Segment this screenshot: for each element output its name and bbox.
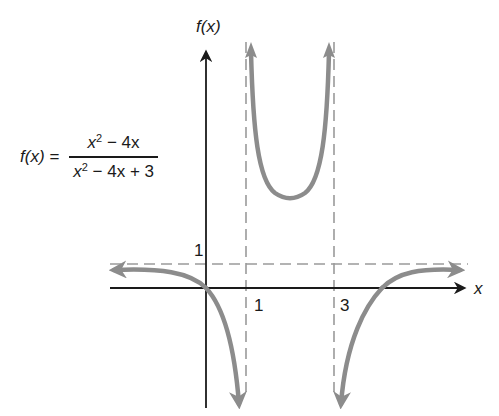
x-tick-1: 1 (254, 297, 263, 314)
middle-branch-arrows (245, 42, 335, 58)
x-axis-label: x (474, 280, 483, 297)
y-tick-1: 1 (194, 242, 203, 259)
numerator: x2 − 4x (82, 132, 146, 156)
function-label: f(x) = (20, 147, 59, 167)
asymptotes (110, 42, 468, 392)
x-tick-3: 3 (340, 297, 349, 314)
fraction: x2 − 4x x2 − 4x + 3 (69, 132, 158, 182)
function-formula: f(x) = x2 − 4x x2 − 4x + 3 (20, 132, 158, 182)
left-branch (114, 270, 206, 288)
left-branch-down (206, 288, 239, 404)
denominator: x2 − 4x + 3 (69, 158, 158, 182)
curve (114, 52, 460, 404)
middle-branch (251, 52, 329, 198)
right-branch (382, 270, 460, 288)
y-axis-label: f(x) (196, 18, 221, 35)
graph-canvas (0, 0, 499, 416)
